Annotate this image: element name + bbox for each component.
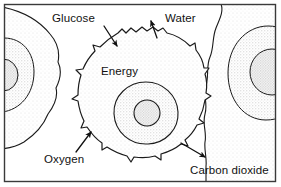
label-glucose: Glucose [52,12,95,24]
cell-right [204,4,281,182]
label-carbon-dioxide: Carbon dioxide [190,164,269,176]
cell-center-nucleolus [134,100,160,126]
label-energy: Energy [101,65,138,77]
label-oxygen: Oxygen [44,153,84,165]
cell-respiration-figure: Glucose Water Energy Oxygen Carbon dioxi… [0,0,281,187]
label-water: Water [165,12,196,24]
